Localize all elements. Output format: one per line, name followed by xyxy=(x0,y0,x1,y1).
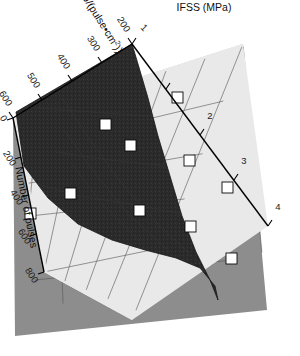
fluence-tick-400: 400 xyxy=(55,52,73,71)
fluence-tick-300: 300 xyxy=(85,34,103,53)
surface-plot-rotated: 4 3 2 1 IFSS (MPa) 200 300 400 500 600 F… xyxy=(0,0,300,356)
ifss-tick-3: 3 xyxy=(241,155,246,166)
ifss-tick-1: 1 xyxy=(139,22,151,34)
fluence-tick-200: 200 xyxy=(115,15,133,34)
data-point xyxy=(222,182,233,193)
fluence-tick-600: 600 xyxy=(0,89,15,108)
ifss-axis-label: IFSS (MPa) xyxy=(177,1,232,13)
data-point xyxy=(125,140,136,151)
svg-text:Fluence (mJ/(pulse•cm2)): Fluence (mJ/(pulse•cm2)) xyxy=(53,0,126,55)
ifss-tick-4: 4 xyxy=(275,201,280,212)
data-point xyxy=(226,253,237,264)
data-point xyxy=(100,119,111,130)
data-point xyxy=(184,155,195,166)
ifss-tick-2: 2 xyxy=(207,110,212,121)
pulses-tick-0: 0 xyxy=(0,113,10,123)
data-point xyxy=(65,188,76,199)
fluence-axis-label-group: Fluence (mJ/(pulse•cm2)) xyxy=(53,0,126,55)
surface-plot-svg: 4 3 2 1 IFSS (MPa) 200 300 400 500 600 F… xyxy=(0,0,300,356)
data-point xyxy=(185,221,196,232)
figure-canvas: 4 3 2 1 IFSS (MPa) 200 300 400 500 600 F… xyxy=(0,0,300,356)
data-point xyxy=(134,205,145,216)
data-point xyxy=(172,92,183,103)
fluence-tick-500: 500 xyxy=(25,71,43,90)
